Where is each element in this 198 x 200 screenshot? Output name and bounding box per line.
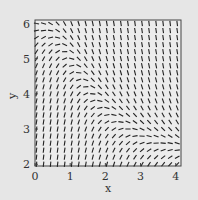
y-axis-label: y <box>6 92 19 100</box>
y-tick-label: 6 <box>23 18 30 31</box>
x-tick-label: 1 <box>67 170 74 183</box>
x-tick-label: 0 <box>32 170 39 183</box>
x-axis-label: x <box>105 182 112 195</box>
y-tick-label: 5 <box>23 53 30 66</box>
x-tick-label: 4 <box>172 170 179 183</box>
y-tick-label: 3 <box>23 123 30 136</box>
y-tick-label: 4 <box>23 88 30 101</box>
x-tick-label: 3 <box>137 170 144 183</box>
slope-field-chart: 01234 23456 x y <box>0 0 198 200</box>
y-tick-label: 2 <box>23 158 30 171</box>
